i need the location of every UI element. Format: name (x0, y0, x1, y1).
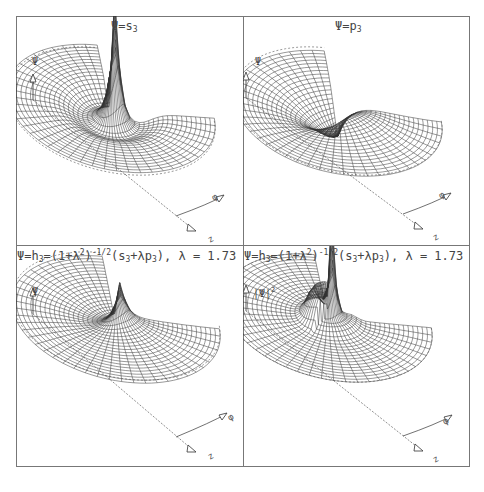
panel-top-right: Ψ=p3 Ψ φ z (243, 16, 470, 245)
surface-plot-h3 (16, 246, 243, 467)
panel-top-left: Ψ=s3 Ψ φ z (16, 16, 243, 245)
surface-plot-p3 (243, 16, 470, 245)
surface-plot-s3 (16, 16, 243, 245)
panel-title: Ψ=h3=(1+λ2)-1/2(s3+λp3), λ = 1.73 (244, 248, 463, 264)
panel-bottom-left: Ψ=h3=(1+λ2)-1/2(s3+λp3), λ = 1.73 Ψ φ z (16, 246, 243, 475)
panel-bottom-right: Ψ=h3=(1+λ2)-1/2(s3+λp3), λ = 1.73 |Ψ|2 φ… (243, 246, 470, 475)
y-axis-label: Ψ (255, 56, 261, 67)
panel-title: Ψ=s3 (111, 19, 138, 34)
y-axis-label: Ψ (32, 286, 38, 297)
panel-title: Ψ=p3 (335, 19, 362, 34)
y-axis-label: Ψ (32, 56, 38, 67)
surface-plot-h3-density (243, 246, 470, 467)
panel-title: Ψ=h3=(1+λ2)-1/2(s3+λp3), λ = 1.73 (17, 248, 236, 264)
y-axis-label: |Ψ|2 (253, 286, 275, 299)
